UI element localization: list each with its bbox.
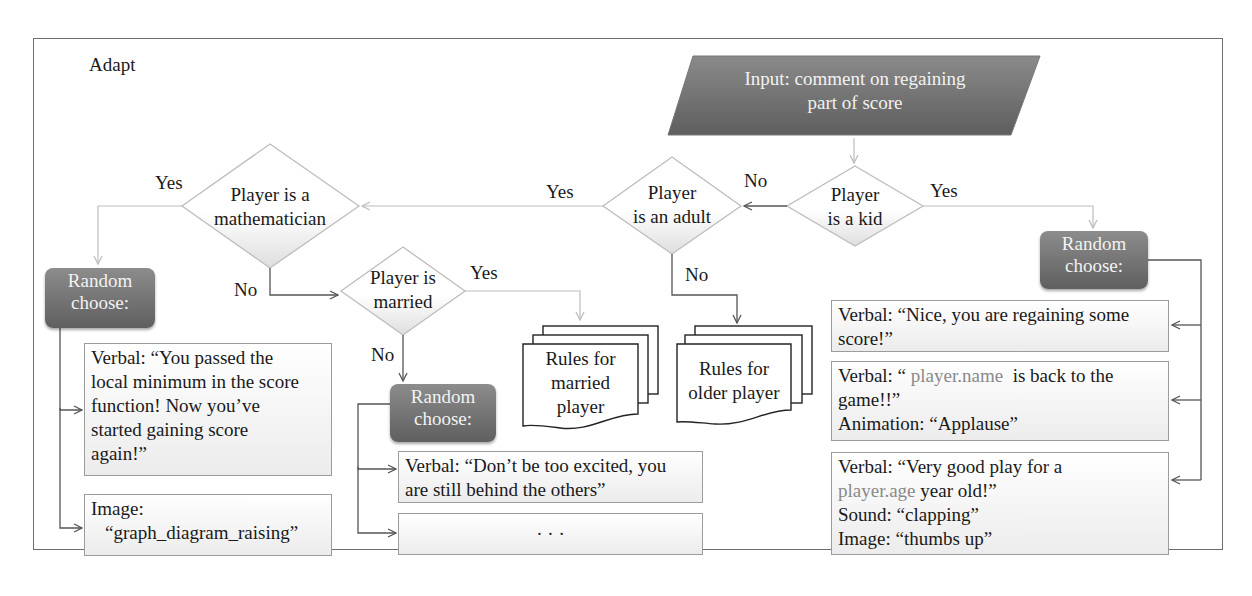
player-age-variable: player.age bbox=[838, 480, 916, 501]
married-no-label: No bbox=[371, 344, 394, 366]
married-yes-label: Yes bbox=[470, 262, 498, 284]
kid-decision-label: Player is a kid bbox=[795, 183, 915, 231]
frame-title: Adapt bbox=[89, 53, 135, 77]
input-label: Input: comment on regaining part of scor… bbox=[690, 67, 1020, 115]
math-image-option: Image: “graph_diagram_raising” bbox=[84, 494, 332, 556]
kid-option-1: Verbal: “Nice, you are regaining some sc… bbox=[831, 300, 1169, 352]
adult-no-label: No bbox=[685, 264, 708, 286]
math-verbal-option: Verbal: “You passed the local minimum in… bbox=[84, 343, 332, 476]
kid-option-2: Verbal: “ player.name is back to the gam… bbox=[831, 361, 1169, 441]
mathematician-decision-label: Player is a mathematician bbox=[200, 183, 340, 231]
married-verbal-option: Verbal: “Don’t be too excited, you are s… bbox=[398, 451, 703, 503]
kid-no-label: No bbox=[744, 170, 767, 192]
kid-yes-label: Yes bbox=[930, 180, 958, 202]
kid-option-3: Verbal: “Very good play for a player.age… bbox=[831, 452, 1169, 555]
married-decision-label: Player is married bbox=[353, 266, 453, 314]
adult-yes-label: Yes bbox=[546, 181, 574, 203]
random-choose-married: Random choose: bbox=[390, 384, 496, 442]
adult-decision-label: Player is an adult bbox=[612, 181, 732, 229]
mathematician-no-label: No bbox=[234, 279, 257, 301]
married-rules-label: Rules for married player bbox=[523, 347, 638, 419]
married-more-option: · · · bbox=[398, 513, 703, 555]
player-name-variable: player.name bbox=[911, 365, 1003, 386]
older-rules-label: Rules for older player bbox=[677, 357, 791, 405]
random-choose-math: Random choose: bbox=[45, 268, 155, 328]
random-choose-kid: Random choose: bbox=[1040, 231, 1148, 289]
mathematician-yes-label: Yes bbox=[155, 172, 183, 194]
